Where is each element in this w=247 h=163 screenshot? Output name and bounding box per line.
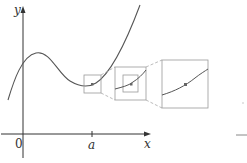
- origin-label: 0: [15, 137, 23, 151]
- tick-label-a: a: [88, 138, 95, 152]
- connector-2-bottom: [146, 100, 162, 108]
- function-curve: [8, 5, 140, 100]
- x-axis-label: x: [144, 137, 151, 151]
- zoomed-curve-2: [115, 70, 146, 89]
- axes: [1, 6, 151, 158]
- x-axis-arrow-icon: [144, 132, 151, 137]
- point-2: [130, 83, 133, 86]
- connector-1-bottom: [101, 93, 115, 100]
- point-3: [184, 83, 187, 86]
- diagram-canvas: y 0 a x: [0, 0, 247, 163]
- y-axis-arrow-icon: [21, 6, 26, 13]
- connector-2-top: [146, 60, 162, 67]
- zoomed-curve-3: [162, 69, 208, 95]
- point-1: [91, 83, 94, 86]
- y-axis-label: y: [13, 3, 21, 17]
